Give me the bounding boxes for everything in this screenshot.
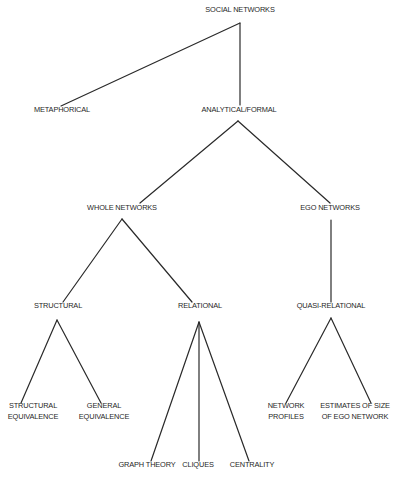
node-centrality: CENTRALITY xyxy=(230,459,275,470)
node-metaphorical: METAPHORICAL xyxy=(34,104,90,115)
edge-analytical_formal-to-whole_networks xyxy=(140,121,238,203)
node-label-line-1: NETWORK xyxy=(268,400,305,411)
edge-relational-to-graph_theory xyxy=(151,322,199,461)
edge-whole_networks-to-relational xyxy=(122,219,192,302)
node-structural: STRUCTURAL xyxy=(34,300,82,311)
node-analytical-formal: ANALYTICAL/FORMAL xyxy=(202,104,277,115)
node-network-profiles: NETWORK PROFILES xyxy=(268,400,305,422)
edge-structural-to-structural_equivalence xyxy=(21,320,57,403)
edge-relational-to-centrality xyxy=(199,322,249,461)
node-general-equivalence: GENERAL EQUIVALENCE xyxy=(79,400,129,422)
node-relational: RELATIONAL xyxy=(178,300,222,311)
node-label: ANALYTICAL/FORMAL xyxy=(202,104,277,115)
node-label: SOCIAL NETWORKS xyxy=(205,4,274,15)
node-label-line-2: OF EGO NETWORK xyxy=(320,411,390,422)
node-graph-theory: GRAPH THEORY xyxy=(118,459,175,470)
node-label-line-1: GENERAL xyxy=(79,400,129,411)
node-label-line-1: STRUCTURAL xyxy=(8,400,58,411)
node-label: EGO NETWORKS xyxy=(300,202,359,213)
node-label: WHOLE NETWORKS xyxy=(87,202,157,213)
node-label: STRUCTURAL xyxy=(34,300,82,311)
edge-whole_networks-to-structural xyxy=(63,219,122,302)
node-label: RELATIONAL xyxy=(178,300,222,311)
node-quasi-relational: QUASI-RELATIONAL xyxy=(297,300,366,311)
node-social-networks: SOCIAL NETWORKS xyxy=(205,4,274,15)
node-label-line-2: PROFILES xyxy=(268,411,305,422)
edge-analytical_formal-to-ego_networks xyxy=(238,121,330,203)
node-label: GRAPH THEORY xyxy=(118,459,175,470)
node-ego-networks: EGO NETWORKS xyxy=(300,202,359,213)
node-label-line-2: EQUIVALENCE xyxy=(8,411,58,422)
node-label-line-2: EQUIVALENCE xyxy=(79,411,129,422)
node-label-line-1: ESTIMATES OF SIZE xyxy=(320,400,390,411)
edge-quasi_relational-to-network_profiles xyxy=(286,318,331,403)
node-label: QUASI-RELATIONAL xyxy=(297,300,366,311)
node-label: CENTRALITY xyxy=(230,459,275,470)
node-structural-equivalence: STRUCTURAL EQUIVALENCE xyxy=(8,400,58,422)
edge-social_networks-to-metaphorical xyxy=(61,23,240,106)
node-label: CLIQUES xyxy=(182,459,213,470)
edge-quasi_relational-to-estimates_size_ego xyxy=(331,318,371,403)
node-label: METAPHORICAL xyxy=(34,104,90,115)
node-whole-networks: WHOLE NETWORKS xyxy=(87,202,157,213)
social-networks-tree-diagram: SOCIAL NETWORKS METAPHORICAL ANALYTICAL/… xyxy=(0,0,401,488)
node-estimates-of-size-of-ego-network: ESTIMATES OF SIZE OF EGO NETWORK xyxy=(320,400,390,422)
node-cliques: CLIQUES xyxy=(182,459,213,470)
edge-structural-to-general_equivalence xyxy=(57,320,101,403)
